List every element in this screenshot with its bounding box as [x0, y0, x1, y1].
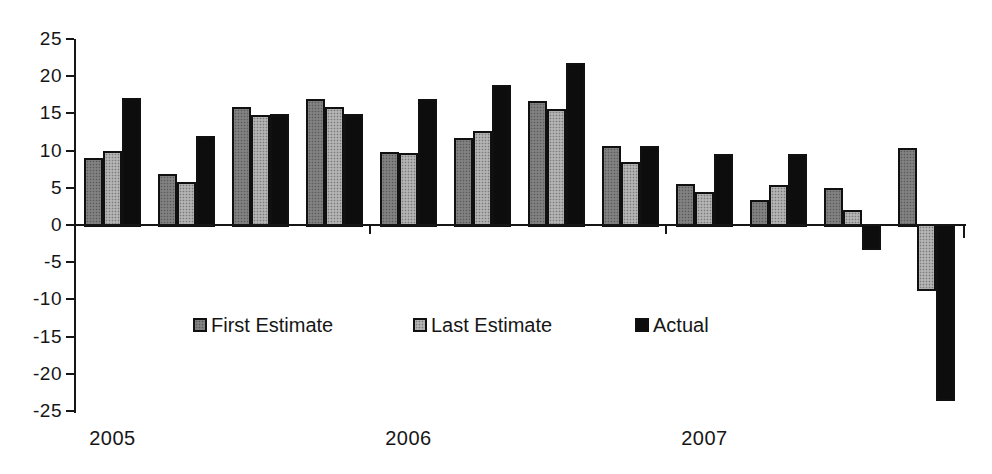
legend-label-last-estimate: Last Estimate: [431, 314, 552, 337]
bar-first-estimate-11: [824, 188, 843, 227]
y-tick-label--5: -5: [8, 251, 62, 273]
y-tick-label--10: -10: [8, 288, 62, 310]
bar-actual-7: [566, 63, 585, 227]
bar-last-estimate-5: [399, 153, 418, 227]
bar-first-estimate-7: [528, 101, 547, 227]
bar-first-estimate-1: [84, 158, 103, 227]
x-year-label-2007: 2007: [660, 427, 750, 450]
bar-actual-2: [196, 136, 215, 227]
y-tick-label--25: -25: [8, 400, 62, 422]
legend-label-first-estimate: First Estimate: [211, 314, 333, 337]
bar-last-estimate-12: [917, 224, 936, 291]
legend-item-actual: Actual: [635, 314, 709, 336]
legend-label-actual: Actual: [653, 314, 709, 337]
x-divider-tick: [369, 224, 371, 234]
bar-actual-8: [640, 146, 659, 227]
bar-actual-10: [788, 154, 807, 227]
y-tick-label--15: -15: [8, 326, 62, 348]
bar-actual-1: [122, 98, 141, 227]
bar-last-estimate-3: [251, 115, 270, 227]
bar-actual-11: [862, 224, 881, 250]
bar-actual-9: [714, 154, 733, 227]
bar-actual-6: [492, 85, 511, 227]
bar-first-estimate-5: [380, 152, 399, 227]
y-tick: [66, 38, 74, 40]
bar-actual-5: [418, 99, 437, 227]
y-tick-label--20: -20: [8, 363, 62, 385]
bar-last-estimate-1: [103, 151, 122, 227]
x-end-tick: [963, 224, 965, 238]
bar-last-estimate-6: [473, 131, 492, 227]
bar-first-estimate-6: [454, 138, 473, 227]
y-tick: [66, 224, 74, 226]
legend-swatch-actual: [635, 318, 649, 332]
y-tick: [66, 298, 74, 300]
y-tick: [66, 261, 74, 263]
bar-first-estimate-10: [750, 200, 769, 227]
y-tick-label-15: 15: [8, 102, 62, 124]
bar-first-estimate-4: [306, 99, 325, 227]
bar-actual-4: [344, 114, 363, 227]
bar-chart: 2520151050-5-10-15-20-25200520062007 Fir…: [0, 0, 992, 474]
bar-actual-3: [270, 114, 289, 227]
y-tick: [66, 336, 74, 338]
x-year-label-2006: 2006: [364, 427, 454, 450]
legend-item-first-estimate: First Estimate: [193, 314, 333, 336]
y-tick-label-5: 5: [8, 177, 62, 199]
x-divider-tick: [665, 224, 667, 234]
y-tick-label-25: 25: [8, 28, 62, 50]
y-tick-label-20: 20: [8, 65, 62, 87]
x-year-label-2005: 2005: [68, 427, 158, 450]
legend-item-last-estimate: Last Estimate: [413, 314, 552, 336]
bar-first-estimate-8: [602, 146, 621, 227]
legend-swatch-first-estimate: [193, 318, 207, 332]
bar-last-estimate-9: [695, 192, 714, 227]
y-axis-line: [74, 39, 76, 413]
y-tick: [66, 112, 74, 114]
y-tick-label-0: 0: [8, 214, 62, 236]
bar-first-estimate-12: [898, 148, 917, 227]
y-tick-label-10: 10: [8, 140, 62, 162]
y-tick: [66, 150, 74, 152]
y-tick: [66, 410, 74, 412]
x-axis-line: [74, 224, 966, 226]
bar-last-estimate-7: [547, 109, 566, 227]
bar-first-estimate-9: [676, 184, 695, 227]
y-tick: [66, 187, 74, 189]
bar-first-estimate-2: [158, 174, 177, 227]
bar-last-estimate-4: [325, 107, 344, 227]
bar-last-estimate-2: [177, 182, 196, 227]
y-tick: [66, 373, 74, 375]
legend-swatch-last-estimate: [413, 318, 427, 332]
bar-last-estimate-10: [769, 185, 788, 227]
plot-area: 2520151050-5-10-15-20-25200520062007: [0, 0, 992, 474]
bar-first-estimate-3: [232, 107, 251, 227]
y-tick: [66, 75, 74, 77]
bar-actual-12: [936, 224, 955, 401]
bar-last-estimate-8: [621, 162, 640, 227]
